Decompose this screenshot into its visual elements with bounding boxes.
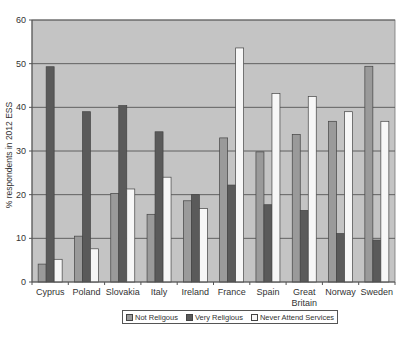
y-tick-label: 30	[16, 146, 26, 156]
bar	[373, 240, 381, 282]
legend-label: Never Attend Services	[260, 313, 334, 322]
x-category-label: France	[218, 287, 246, 297]
bar	[127, 189, 135, 282]
x-category-label: Norway	[325, 287, 356, 297]
legend-item: Never Attend Services	[251, 313, 334, 322]
bar	[272, 93, 280, 282]
x-category-label: Sweden	[361, 287, 394, 297]
bar	[163, 177, 171, 282]
bar	[90, 249, 98, 282]
bar	[292, 134, 300, 282]
x-category-label: Slovakia	[106, 287, 140, 297]
bar	[199, 209, 207, 282]
bar	[236, 48, 244, 282]
x-category-label: Great	[293, 287, 316, 297]
y-axis-ticks: 0102030405060	[16, 15, 32, 287]
legend-label: Very Religious	[195, 313, 243, 322]
x-category-label: Poland	[72, 287, 100, 297]
y-tick-label: 40	[16, 102, 26, 112]
legend-swatch	[251, 314, 258, 321]
bar	[228, 185, 236, 282]
bar	[111, 193, 119, 282]
bar	[54, 259, 62, 282]
bar	[191, 195, 199, 282]
y-tick-label: 10	[16, 233, 26, 243]
y-tick-label: 50	[16, 59, 26, 69]
legend-item: Very Religious	[186, 313, 243, 322]
bar	[74, 236, 82, 282]
legend-swatch	[186, 314, 193, 321]
bar-chart: 0102030405060 CyprusPolandSlovakiaItalyI…	[0, 0, 410, 340]
legend-item: Not Religous	[126, 313, 178, 322]
bar	[119, 106, 127, 282]
bar	[337, 234, 345, 282]
legend-swatch	[126, 314, 133, 321]
bar	[264, 205, 272, 282]
bar	[46, 67, 54, 282]
legend-label: Not Religous	[135, 313, 178, 322]
bar	[256, 152, 264, 282]
x-category-label: Cyprus	[36, 287, 65, 297]
bar	[220, 138, 228, 282]
bar	[82, 112, 90, 282]
x-category-label: Britain	[291, 298, 317, 308]
bar	[155, 132, 163, 282]
legend: Not ReligousVery ReligiousNever Attend S…	[122, 310, 338, 324]
bar	[183, 201, 191, 282]
bar	[329, 121, 337, 282]
y-tick-label: 0	[21, 277, 26, 287]
bar	[147, 214, 155, 282]
bar	[365, 66, 373, 282]
bar	[308, 96, 316, 282]
x-category-label: Spain	[256, 287, 279, 297]
x-axis-labels: CyprusPolandSlovakiaItalyIrelandFranceSp…	[32, 282, 395, 308]
x-category-label: Italy	[151, 287, 168, 297]
x-category-label: Ireland	[182, 287, 210, 297]
y-tick-label: 60	[16, 15, 26, 25]
bar	[300, 210, 308, 282]
bar	[345, 112, 353, 282]
bar	[38, 264, 46, 282]
y-axis-title: % respondents in 2012 ESS	[4, 102, 14, 209]
y-tick-label: 20	[16, 190, 26, 200]
bar	[381, 121, 389, 282]
